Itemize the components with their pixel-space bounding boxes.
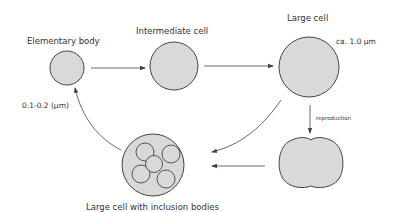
- label-large-cell: Large cell: [287, 13, 328, 23]
- label-intermediate-cell: Intermediate cell: [136, 26, 208, 36]
- arrow-inclusion-to-elementary: [75, 88, 121, 150]
- label-reproduction: reproduction: [316, 115, 351, 121]
- elementary-body-cell: [50, 51, 84, 85]
- intermediate-cell: [150, 42, 198, 90]
- label-large-cell-size: ca. 1.0 μm: [336, 37, 376, 46]
- chlamydia-life-cycle-diagram: Elementary body Intermediate cell Large …: [0, 0, 399, 212]
- large-cell: [279, 37, 339, 97]
- inclusion-body-cell: [122, 134, 184, 196]
- label-inclusion-cell: Large cell with inclusion bodies: [86, 202, 219, 212]
- arrow-large-to-inclusion: [212, 100, 281, 152]
- label-elementary-size: 0.1-0.2 (μm): [22, 101, 69, 110]
- label-elementary-body: Elementary body: [27, 36, 100, 46]
- dividing-cell: [279, 138, 343, 188]
